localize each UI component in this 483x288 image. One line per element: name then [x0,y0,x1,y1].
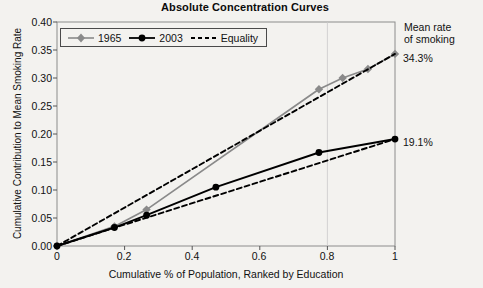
data-point-2003 [212,184,219,191]
value-label-1965: 34.3% [403,53,433,65]
legend-label-1965: 1965 [98,32,121,44]
legend-label-equality: Equality [221,32,258,44]
value-label-2003: 19.1% [403,137,433,149]
legend-item-2003: 2003 [129,32,182,44]
chart-figure: Absolute Concentration Curves Cumulative… [0,0,483,288]
legend-swatch-equality-icon [191,32,217,44]
legend-item-equality: Equality [191,32,258,44]
plot-frame [57,22,395,246]
mean-rate-caption-line1: Mean rate [404,22,451,34]
series-line-equality-2 [57,54,395,246]
mean-rate-caption-line2: of smoking [404,34,455,46]
legend-swatch-1965-icon [68,32,94,44]
legend-item-1965: 1965 [68,32,121,44]
chart-legend: 1965 2003 Equality [60,28,267,47]
legend-swatch-2003-icon [129,32,155,44]
legend-label-2003: 2003 [159,32,182,44]
data-point-2003 [316,149,323,156]
